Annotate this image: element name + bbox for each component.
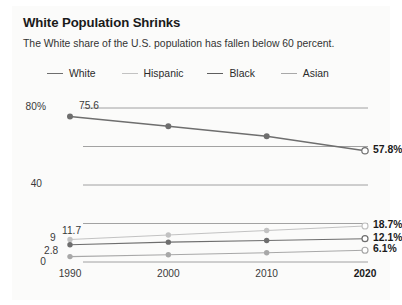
series-line-hispanic (70, 226, 365, 239)
datapoint-white-1990[interactable] (67, 113, 73, 119)
datapoint-asian-2020[interactable] (362, 247, 368, 253)
y-axis-label-40: 40 (31, 178, 42, 189)
datapoint-white-2000[interactable] (165, 123, 171, 129)
end-label-hispanic: 18.7% (373, 219, 402, 230)
datapoint-asian-2000[interactable] (166, 252, 171, 257)
start-label-black: 9 (50, 232, 56, 243)
start-label-hispanic: 11.7 (62, 225, 81, 236)
datapoint-hispanic-2000[interactable] (166, 232, 171, 237)
y-axis-label-80: 80% (26, 101, 46, 112)
series-line-black (70, 239, 365, 245)
datapoint-black-2020[interactable] (362, 236, 368, 242)
x-axis-tick-2020: 2020 (345, 268, 385, 279)
datapoint-black-1990[interactable] (67, 242, 72, 247)
start-label-asian: 2.8 (44, 245, 58, 256)
datapoint-hispanic-1990[interactable] (67, 237, 72, 242)
datapoint-asian-2010[interactable] (264, 250, 269, 255)
datapoint-white-2010[interactable] (264, 133, 270, 139)
x-axis-tick-2000: 2000 (148, 268, 188, 279)
datapoint-asian-1990[interactable] (67, 254, 72, 259)
series-lines (67, 113, 368, 259)
datapoint-hispanic-2020[interactable] (362, 223, 368, 229)
series-line-white (70, 116, 365, 150)
x-axis-tick-1990: 1990 (50, 268, 90, 279)
end-label-white: 57.8% (373, 144, 402, 155)
x-axis-tick-2010: 2010 (247, 268, 287, 279)
y-axis-label-0: 0 (40, 256, 46, 267)
series-line-asian (70, 250, 365, 256)
datapoint-black-2000[interactable] (166, 239, 171, 244)
end-label-black: 12.1% (373, 232, 402, 243)
start-label-white: 75.6 (79, 100, 99, 111)
chart-plot-area (0, 0, 402, 305)
datapoint-black-2010[interactable] (264, 238, 269, 243)
end-label-asian: 6.1% (373, 243, 397, 254)
datapoint-hispanic-2010[interactable] (264, 228, 269, 233)
datapoint-white-2020[interactable] (362, 148, 368, 154)
